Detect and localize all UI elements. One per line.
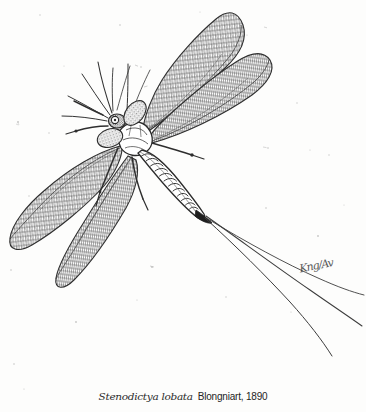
head — [109, 114, 126, 128]
cercus — [205, 218, 332, 356]
caption: Stenodictya lobataBlongniart, 1890 — [0, 386, 366, 404]
insect-illustration — [0, 0, 366, 412]
cerci — [205, 216, 364, 356]
illustration-plate: Stenodictya lobataBlongniart, 1890 Kng/A… — [0, 0, 366, 412]
scientific-name: Stenodictya lobata — [99, 390, 193, 401]
abdomen — [138, 150, 212, 223]
caption-authority: Blongniart, 1890 — [198, 391, 268, 402]
